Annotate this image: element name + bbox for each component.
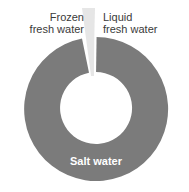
frozen-fresh-water-label: Frozen fresh water xyxy=(20,11,84,35)
salt-water-label: Salt water xyxy=(66,155,126,167)
frozen-label-line2: fresh water xyxy=(20,23,84,35)
liquid-label-line2: fresh water xyxy=(103,23,157,35)
frozen-label-line1: Frozen xyxy=(20,11,84,23)
liquid-fresh-water-label: Liquid fresh water xyxy=(103,11,157,35)
liquid-label-line1: Liquid xyxy=(103,11,157,23)
